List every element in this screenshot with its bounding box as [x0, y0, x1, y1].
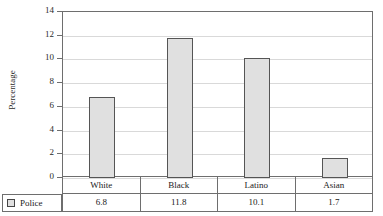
table-cell-value: 10.1 — [218, 194, 296, 211]
legend-label: Police — [20, 199, 43, 208]
y-tick-label: 2 — [14, 148, 54, 157]
table-cell-value: 1.7 — [296, 194, 373, 211]
table-cell-value: 6.8 — [63, 194, 141, 211]
table-cell-category: White — [63, 177, 141, 193]
data-table: Police WhiteBlackLatinoAsian 6.811.810.1… — [2, 177, 373, 213]
table-cell-category: Black — [141, 177, 219, 193]
y-axis-title: Percentage — [7, 60, 17, 120]
y-tick-label: 12 — [14, 30, 54, 39]
bar — [167, 38, 193, 178]
y-tick-label: 10 — [14, 53, 54, 62]
table-cell-category: Asian — [296, 177, 373, 193]
legend-swatch-icon — [7, 199, 15, 207]
y-tick-label: 8 — [14, 77, 54, 86]
bar — [244, 58, 270, 178]
table-cell-value: 11.8 — [141, 194, 219, 211]
bar — [322, 158, 348, 178]
gridline — [63, 59, 372, 60]
gridline — [63, 83, 372, 84]
bar — [89, 97, 115, 178]
y-tick-label: 6 — [14, 101, 54, 110]
table-cell-category: Latino — [218, 177, 296, 193]
plot-area — [62, 11, 373, 177]
y-tick-label: 4 — [14, 125, 54, 134]
y-tick-label: 14 — [14, 6, 54, 15]
table-grid: WhiteBlackLatinoAsian 6.811.810.11.7 — [62, 177, 373, 212]
table-row-values: 6.811.810.11.7 — [63, 194, 372, 211]
legend-entry-police: Police — [2, 194, 62, 212]
table-row-categories: WhiteBlackLatinoAsian — [63, 177, 372, 194]
bar-chart-figure: Percentage 02468101214 Police WhiteBlack… — [0, 0, 383, 216]
gridline — [63, 36, 372, 37]
